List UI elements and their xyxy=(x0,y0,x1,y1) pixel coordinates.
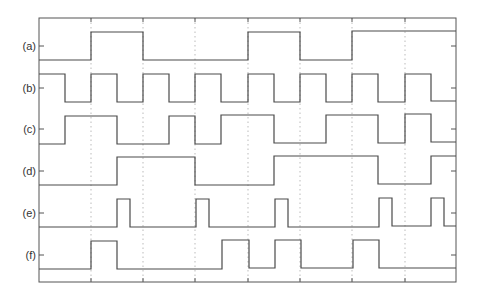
signal-label-b: (b) xyxy=(23,82,36,94)
signal-label-f: (f) xyxy=(26,249,36,261)
signal-trace-e xyxy=(39,198,456,227)
signal-label-d: (d) xyxy=(23,165,36,177)
timing-diagram: (a) (b) (c) (d) (e) (f) xyxy=(0,0,479,297)
signal-trace-d xyxy=(39,156,456,185)
signal-trace-f xyxy=(39,240,456,269)
signal-trace-b xyxy=(39,74,456,102)
signal-label-c: (c) xyxy=(23,123,36,135)
signal-label-e: (e) xyxy=(23,207,36,219)
signal-trace-c xyxy=(39,114,456,144)
signal-trace-a xyxy=(39,31,456,60)
signal-label-a: (a) xyxy=(23,40,36,52)
